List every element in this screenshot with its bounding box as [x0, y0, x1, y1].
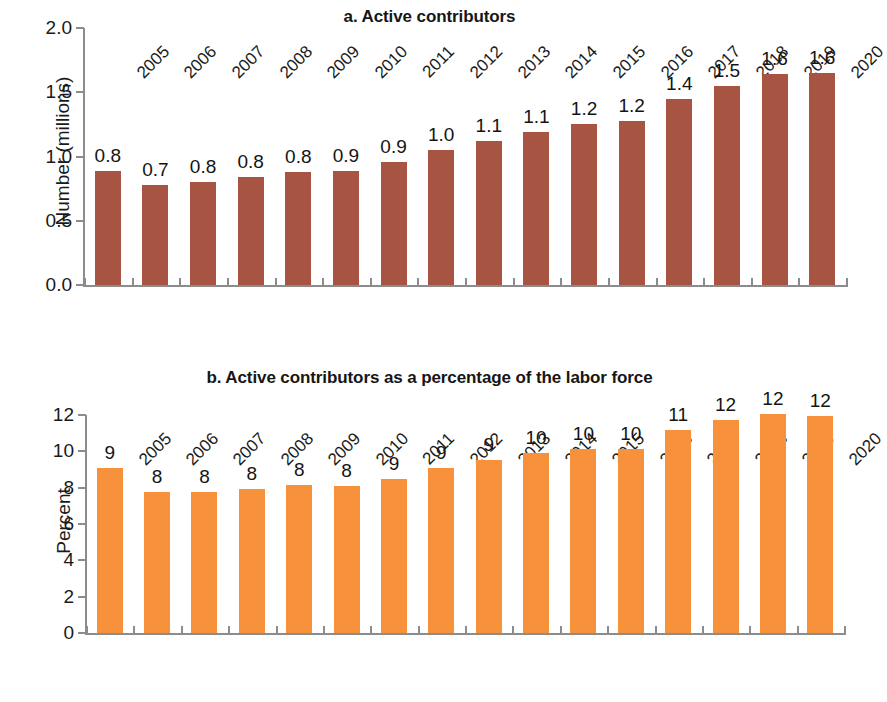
panel-b-y-tick-label: 8: [63, 477, 74, 499]
panel-a-x-tick: [703, 278, 705, 287]
panel-b-y-tick-label: 2: [63, 586, 74, 608]
bar-value-label-2016: 10: [620, 423, 641, 445]
panel-b-x-tick: [844, 626, 846, 635]
bar-value-label-2009: 8: [294, 459, 305, 481]
panel-a-x-tick: [751, 278, 753, 287]
panel-b-x-tick: [86, 626, 88, 635]
bar-2020: [807, 416, 833, 633]
bar-2008: [238, 177, 264, 285]
bar-value-label-2019: 1.6: [761, 48, 787, 70]
panel-a-y-tick: [76, 156, 84, 158]
panel-a-y-tick-label: 1.5: [46, 81, 72, 103]
bar-value-label-2008: 0.8: [237, 151, 263, 173]
panel-b-y-tick: [78, 487, 86, 489]
panel-a-y-tick: [76, 220, 84, 222]
bar-value-label-2011: 0.9: [380, 136, 406, 158]
bar-2014: [523, 132, 549, 285]
panel-a-x-tick: [513, 278, 515, 287]
panel-a-x-tick: [370, 278, 372, 287]
bar-2009: [285, 172, 311, 285]
x-axis-category-label-2010: 2010: [371, 42, 412, 83]
panel-b-x-tick: [702, 626, 704, 635]
panel-a-y-tick-label: 0.0: [46, 274, 72, 296]
panel-a-plot-area: Number (millions) 0.00.51.01.52.00.82005…: [84, 28, 846, 285]
bar-2016: [619, 121, 645, 285]
bar-value-label-2012: 9: [436, 442, 447, 464]
bar-2019: [760, 414, 786, 633]
bar-value-label-2006: 8: [152, 466, 163, 488]
panel-b-y-tick: [78, 632, 86, 634]
bar-2016: [618, 449, 644, 633]
bar-value-label-2013: 1.1: [476, 115, 502, 137]
bar-value-label-2018: 12: [715, 394, 736, 416]
x-axis-category-label-2020: 2020: [847, 42, 887, 83]
bar-2013: [476, 460, 502, 633]
panel-a-x-tick: [132, 278, 134, 287]
bar-2015: [570, 449, 596, 633]
panel-a-x-tick: [227, 278, 229, 287]
bar-2013: [476, 141, 502, 285]
panel-b-x-tick: [228, 626, 230, 635]
bar-value-label-2010: 0.9: [333, 145, 359, 167]
x-axis-category-label-2015: 2015: [609, 42, 650, 83]
panel-a-x-tick: [798, 278, 800, 287]
bar-2007: [191, 492, 217, 633]
panel-a-x-tick: [322, 278, 324, 287]
bar-2017: [666, 99, 692, 285]
panel-b-x-tick: [323, 626, 325, 635]
bar-value-label-2006: 0.7: [142, 159, 168, 181]
bar-value-label-2012: 1.0: [428, 124, 454, 146]
panel-b-x-tick: [749, 626, 751, 635]
x-axis-category-label-2006: 2006: [182, 429, 223, 470]
panel-a-y-tick: [76, 27, 84, 29]
panel-a-x-tick: [465, 278, 467, 287]
panel-b-y-tick: [78, 559, 86, 561]
x-axis-category-label-2013: 2013: [514, 42, 555, 83]
bar-value-label-2011: 9: [389, 453, 400, 475]
bar-2005: [97, 468, 123, 633]
panel-b-y-tick: [78, 414, 86, 416]
panel-b-x-tick: [607, 626, 609, 635]
bar-value-label-2005: 0.8: [95, 145, 121, 167]
bar-2015: [571, 124, 597, 285]
bar-2012: [428, 468, 454, 633]
bar-2005: [95, 171, 121, 285]
bar-value-label-2015: 10: [573, 423, 594, 445]
panel-b-x-tick: [133, 626, 135, 635]
bar-value-label-2014: 10: [525, 427, 546, 449]
panel-b-x-tick: [655, 626, 657, 635]
panel-b-title: b. Active contributors as a percentage o…: [0, 368, 859, 388]
bar-2006: [144, 492, 170, 633]
bar-value-label-2015: 1.2: [571, 98, 597, 120]
x-axis-category-label-2009: 2009: [323, 42, 364, 83]
panel-b-plot-area: Percent 02468101292005820068200782008820…: [86, 415, 844, 633]
panel-a-y-tick-label: 1.0: [46, 146, 72, 168]
panel-a-x-tick: [179, 278, 181, 287]
panel-b-x-tick: [465, 626, 467, 635]
panel-a-x-tick: [846, 278, 848, 287]
bar-2012: [428, 150, 454, 285]
bar-2019: [762, 74, 788, 285]
panel-b-y-tick: [78, 523, 86, 525]
panel-a-x-tick: [656, 278, 658, 287]
bar-value-label-2020: 12: [810, 390, 831, 412]
panel-a-y-tick-label: 2.0: [46, 17, 72, 39]
bar-2014: [523, 453, 549, 633]
bar-2018: [713, 420, 739, 633]
panel-b-y-tick-label: 12: [53, 404, 74, 426]
panel-a-x-tick: [560, 278, 562, 287]
panel-a-title: a. Active contributors: [0, 7, 859, 27]
panel-b-y-tick-label: 6: [63, 513, 74, 535]
panel-b-x-tick: [181, 626, 183, 635]
bar-value-label-2019: 12: [762, 388, 783, 410]
bar-value-label-2017: 11: [668, 404, 688, 426]
panel-a-active-contributors: a. Active contributors Number (millions)…: [0, 0, 859, 352]
panel-a-x-tick: [417, 278, 419, 287]
x-axis-category-label-2011: 2011: [418, 42, 458, 82]
bar-value-label-2018: 1.5: [714, 60, 740, 82]
panel-b-x-tick: [370, 626, 372, 635]
bar-2010: [333, 171, 359, 285]
panel-a-y-tick: [76, 284, 84, 286]
bar-value-label-2014: 1.1: [523, 106, 549, 128]
